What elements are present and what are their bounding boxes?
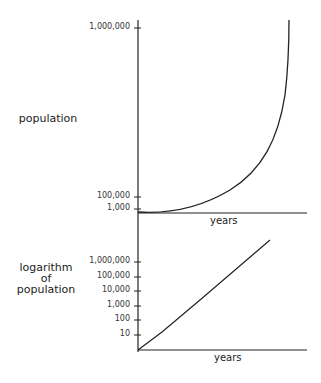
exponential-curve [138,20,289,212]
tick-label: 1,000 [70,300,130,309]
charts-canvas [0,0,321,383]
log-line [138,240,270,350]
tick-label: 100 [70,314,130,323]
bottom-x-axis-label: years [214,352,242,363]
top-x-axis-label: years [210,215,238,226]
top-y-axis-label: population [18,113,78,124]
tick-label: 100,000 [70,271,130,280]
tick-label: 10,000 [70,285,130,294]
tick-label: 100,000 [70,191,130,200]
tick-label: 10 [70,329,130,338]
tick-label: 1,000 [70,203,130,212]
bottom-y-axis-label: logarithm of population [14,262,78,295]
ylabel-line: population [14,284,78,295]
tick-label: 1,000,000 [70,256,130,265]
tick-label: 1,000,000 [70,22,130,31]
